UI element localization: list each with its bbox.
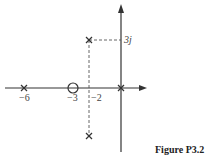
tick-label-3j: 3j	[124, 35, 132, 45]
pole-zero-plot	[0, 0, 218, 162]
tick-label-minus2: −2	[91, 93, 102, 103]
figure-caption: Figure P3.2	[155, 145, 204, 155]
tick-label-minus6: −6	[19, 93, 30, 103]
pole-icon-lower	[86, 133, 92, 139]
tick-label-minus3: −3	[67, 93, 78, 103]
real-axis-arrow-icon	[139, 85, 147, 91]
imag-axis-arrow-icon	[118, 4, 124, 13]
